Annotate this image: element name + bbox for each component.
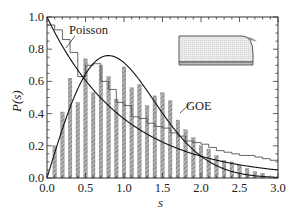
histogram-bar [61, 112, 65, 178]
histogram-bar [107, 77, 111, 178]
billiard-inset-icon [179, 36, 257, 65]
histogram-bar [76, 102, 80, 178]
histogram-bar [145, 106, 149, 178]
x-tick-label: 1.5 [155, 181, 171, 195]
x-tick-label: 0.5 [78, 181, 94, 195]
histogram-bar [68, 78, 72, 178]
histogram-bar [138, 85, 142, 178]
y-tick-label: 0.0 [28, 171, 44, 185]
y-tick-label: 0.8 [28, 42, 44, 56]
x-axis-label: s [158, 195, 163, 210]
spacing-distribution-chart: 0.00.51.01.52.02.53.00.00.20.40.60.81.0 … [0, 0, 292, 214]
x-tick-label: 2.0 [193, 181, 209, 195]
x-tick-label: 2.5 [232, 181, 248, 195]
histogram-bar [192, 138, 196, 178]
histogram-bar [207, 149, 211, 178]
y-tick-label: 1.0 [28, 10, 44, 24]
histogram-bar [91, 93, 95, 178]
histogram-bar [99, 65, 103, 178]
histogram-bar [153, 96, 157, 178]
histogram-bar [161, 93, 165, 178]
histogram-bar [168, 101, 172, 178]
histogram-bar [130, 88, 134, 178]
histogram-bar [122, 67, 126, 178]
y-tick-label: 0.6 [28, 74, 44, 88]
y-axis-label: P(s) [9, 90, 24, 113]
x-tick-label: 1.0 [116, 181, 132, 195]
poisson-label: Poisson [69, 23, 109, 37]
y-tick-label: 0.2 [28, 139, 44, 153]
goe-label: GOE [186, 99, 212, 113]
x-tick-label: 3.0 [270, 181, 286, 195]
y-tick-label: 0.4 [28, 107, 44, 121]
